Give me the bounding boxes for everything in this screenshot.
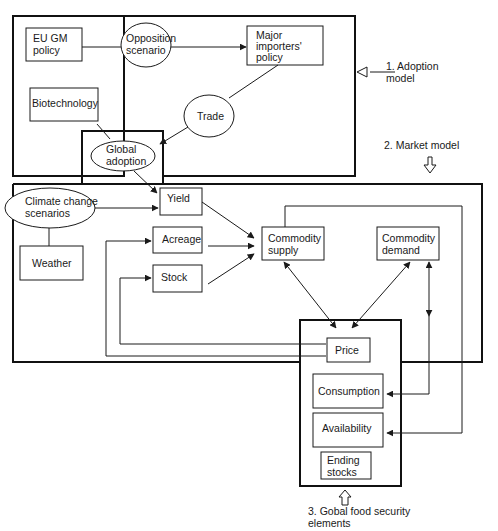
node-climate-change-scenarios: Climate change scenarios <box>5 188 98 228</box>
node-major-importers-policy: Major importers' policy <box>247 26 323 65</box>
svg-text:policy: policy <box>33 44 61 56</box>
edge-trade-to-adoption <box>160 127 188 144</box>
adoption-pointer-arrow-icon <box>357 67 367 77</box>
node-consumption: Consumption <box>313 374 383 408</box>
svg-text:Commodity: Commodity <box>382 232 436 244</box>
node-availability: Availability <box>313 413 383 447</box>
node-price: Price <box>327 338 370 362</box>
svg-text:Climate change: Climate change <box>25 195 98 207</box>
svg-text:Acreage: Acreage <box>162 233 201 245</box>
adoption-model-label: 1. Adoption <box>386 60 439 72</box>
svg-text:adoption: adoption <box>106 155 146 167</box>
node-ending-stocks: Ending stocks <box>321 452 371 479</box>
node-eu-gm-policy: EU GM policy <box>26 28 82 61</box>
node-trade: Trade <box>184 95 234 137</box>
node-weather: Weather <box>20 246 83 280</box>
node-yield: Yield <box>160 188 202 215</box>
svg-text:EU GM: EU GM <box>33 32 67 44</box>
edge-supply-price <box>284 262 336 328</box>
svg-text:scenarios: scenarios <box>25 207 70 219</box>
edge-demand-to-consumption <box>387 316 429 394</box>
svg-text:Opposition: Opposition <box>126 32 176 44</box>
svg-text:Biotechnology: Biotechnology <box>32 97 99 109</box>
svg-text:Consumption: Consumption <box>318 385 380 397</box>
svg-text:Yield: Yield <box>167 192 190 204</box>
node-global-adoption: Global adoption <box>91 141 155 171</box>
node-commodity-demand: Commodity demand <box>377 227 439 260</box>
svg-text:stocks: stocks <box>327 466 357 478</box>
food-security-pointer-arrow-icon <box>339 490 351 505</box>
edge-price-to-stock <box>120 278 326 344</box>
node-acreage: Acreage <box>153 227 202 253</box>
diagram-canvas: EU GM policy Opposition scenario Major i… <box>0 0 498 531</box>
svg-text:supply: supply <box>268 244 299 256</box>
node-biotechnology: Biotechnology <box>30 88 99 121</box>
market-pointer-arrow-icon <box>424 157 436 173</box>
svg-text:policy: policy <box>256 51 284 63</box>
svg-text:Price: Price <box>335 344 359 356</box>
svg-text:scenario: scenario <box>126 44 166 56</box>
edge-demand-price <box>352 262 410 328</box>
svg-text:demand: demand <box>382 244 420 256</box>
node-stock: Stock <box>153 265 202 292</box>
node-opposition-scenario: Opposition scenario <box>121 23 176 67</box>
svg-text:Trade: Trade <box>197 110 224 122</box>
svg-text:Ending: Ending <box>327 454 360 466</box>
svg-text:Global: Global <box>106 143 136 155</box>
svg-text:elements: elements <box>308 517 351 529</box>
svg-text:Availability: Availability <box>322 422 372 434</box>
food-security-label: 3. Gobal food security <box>308 505 411 517</box>
node-commodity-supply: Commodity supply <box>262 227 324 260</box>
edge-adoption-to-yield <box>134 171 157 193</box>
market-model-label: 2. Market model <box>384 139 459 151</box>
svg-text:Commodity: Commodity <box>268 232 322 244</box>
edge-yield-to-supply <box>202 202 254 238</box>
svg-text:Stock: Stock <box>161 271 188 283</box>
edge-stock-to-supply <box>208 254 254 284</box>
svg-text:Weather: Weather <box>32 257 72 269</box>
edge-importers-to-trade <box>229 65 278 98</box>
svg-text:model: model <box>386 72 415 84</box>
